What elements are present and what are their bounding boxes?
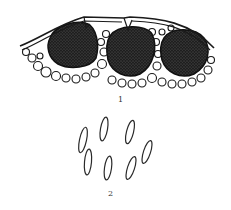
perithecium-2 <box>107 27 155 76</box>
panel-1-label: 1 <box>118 95 123 104</box>
panel-1-cross-section <box>20 17 215 88</box>
panel-2-spores <box>77 117 154 181</box>
spore <box>83 149 92 176</box>
panel-2-label: 2 <box>108 189 113 198</box>
spore <box>77 127 89 154</box>
spore <box>98 117 109 142</box>
spore <box>140 140 154 165</box>
botanical-illustration: 1 2 <box>0 0 231 210</box>
spore <box>124 120 137 145</box>
spore <box>124 156 138 181</box>
spore <box>103 156 113 181</box>
